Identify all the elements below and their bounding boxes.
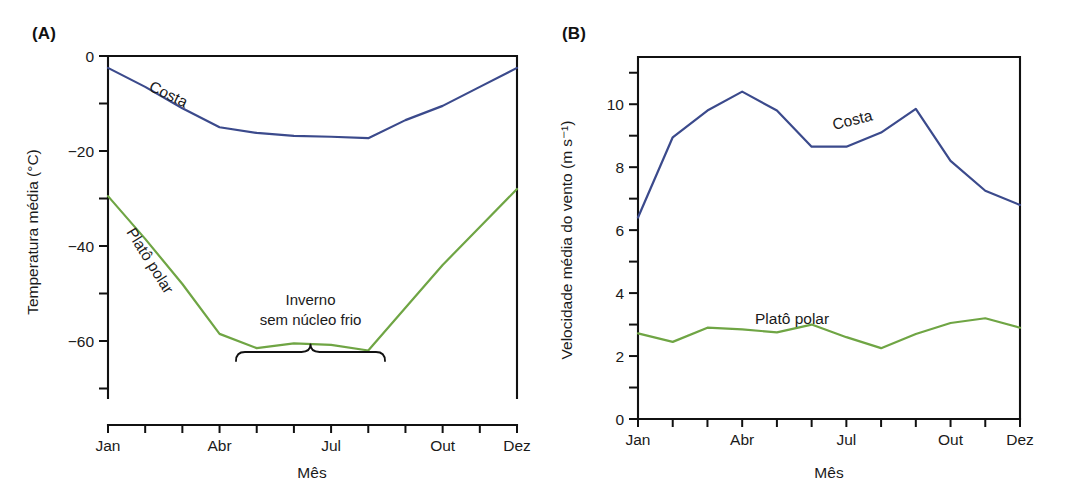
series-label-costa: Costa <box>147 77 191 110</box>
y-tick-label: 8 <box>615 159 624 176</box>
x-tick-label: Jul <box>836 431 856 448</box>
series-line-costa <box>638 92 1020 218</box>
y-tick-label: 0 <box>615 411 624 428</box>
x-axis-title: Mês <box>814 464 844 481</box>
x-axis-title: Mês <box>297 464 327 481</box>
x-tick-label: Abr <box>207 437 231 454</box>
inverno-annotation-line: Inverno <box>285 291 335 308</box>
y-tick-label: 2 <box>615 348 624 365</box>
x-tick-label: Jan <box>626 431 651 448</box>
panel-a-plot: JanAbrJulOutDez0−20−40−60CostaPlatô pola… <box>0 0 540 498</box>
y-tick-label: 6 <box>615 222 624 239</box>
y-axis-title: Temperatura média (°C) <box>24 149 41 315</box>
axis-frame <box>638 57 1020 419</box>
series-label-plat-polar: Platô polar <box>755 310 829 327</box>
y-tick-label: −60 <box>68 333 95 350</box>
x-tick-label: Out <box>938 431 964 448</box>
y-tick-label: 10 <box>607 96 625 113</box>
x-tick-label: Dez <box>1006 431 1034 448</box>
y-tick-label: 4 <box>615 285 624 302</box>
y-tick-label: −40 <box>68 238 95 255</box>
figure-two-panel-chart: (A) JanAbrJulOutDez0−20−40−60CostaPlatô … <box>0 0 1075 498</box>
y-tick-label: 0 <box>85 48 94 65</box>
y-tick-label: −20 <box>68 143 95 160</box>
series-label-costa: Costa <box>831 107 875 133</box>
x-tick-label: Dez <box>503 437 531 454</box>
y-axis-title: Velocidade média do vento (m s⁻¹) <box>558 121 575 360</box>
panel-b-plot: JanAbrJulOutDez0246810CostaPlatô polarMê… <box>540 0 1075 498</box>
axis-frame <box>108 56 517 398</box>
x-tick-label: Jul <box>321 437 341 454</box>
x-tick-label: Abr <box>730 431 754 448</box>
x-tick-label: Out <box>430 437 456 454</box>
series-label-plat-polar: Platô polar <box>123 225 177 297</box>
x-tick-label: Jan <box>96 437 121 454</box>
panel-a: (A) JanAbrJulOutDez0−20−40−60CostaPlatô … <box>0 0 540 498</box>
inverno-annotation-line: sem núcleo frio <box>260 311 362 328</box>
panel-b: (B) JanAbrJulOutDez0246810CostaPlatô pol… <box>540 0 1075 498</box>
